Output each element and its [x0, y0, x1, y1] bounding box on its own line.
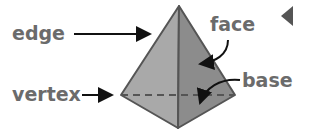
label-edge: edge — [12, 22, 65, 44]
corner-marker-icon — [281, 6, 293, 26]
left-face — [121, 6, 179, 128]
label-vertex: vertex — [12, 83, 81, 105]
pyramid-diagram: edge face vertex base — [0, 0, 310, 134]
label-face: face — [210, 13, 255, 35]
label-base: base — [242, 69, 293, 91]
